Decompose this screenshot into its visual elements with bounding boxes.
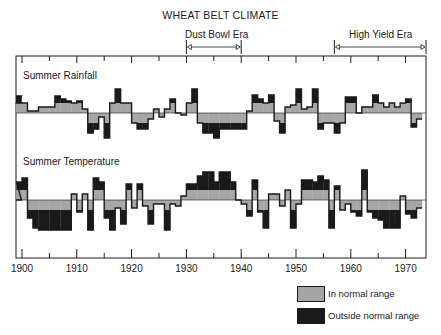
x-tick-label: 1920 bbox=[117, 263, 147, 274]
plot-frame bbox=[16, 56, 426, 258]
x-tick-label: 1900 bbox=[7, 263, 37, 274]
x-tick-label: 1970 bbox=[391, 263, 421, 274]
legend-label-normal: In normal range bbox=[328, 288, 395, 299]
x-tick-label: 1930 bbox=[171, 263, 201, 274]
chart-plot bbox=[0, 0, 441, 335]
legend-swatch-normal bbox=[297, 286, 325, 302]
x-tick-label: 1950 bbox=[281, 263, 311, 274]
legend-swatch-outside bbox=[297, 308, 325, 324]
x-tick-label: 1940 bbox=[226, 263, 256, 274]
legend-label-outside: Outside normal range bbox=[328, 310, 419, 321]
x-tick-label: 1960 bbox=[336, 263, 366, 274]
x-tick-label: 1910 bbox=[62, 263, 92, 274]
